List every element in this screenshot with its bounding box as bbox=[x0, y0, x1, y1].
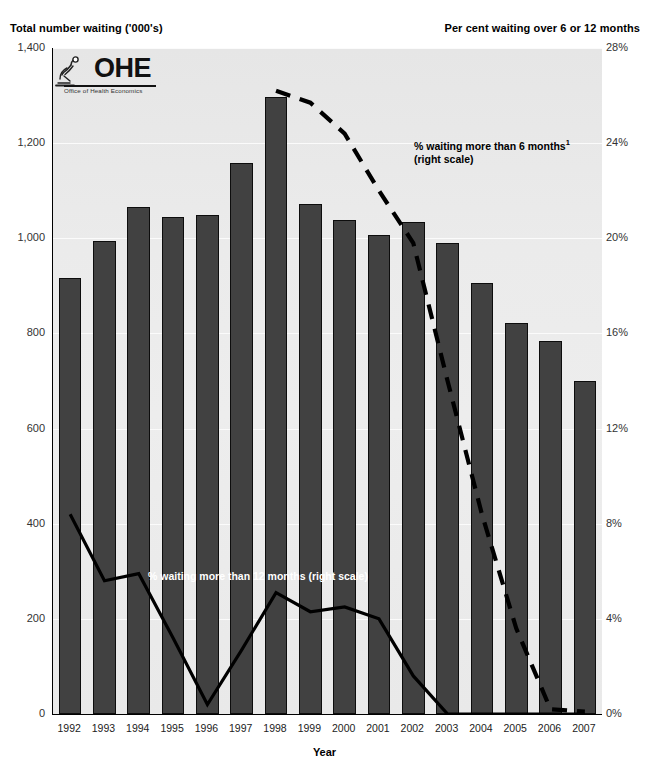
annotation-six-months-line2: (right scale) bbox=[414, 153, 474, 165]
x-tick-2007: 2007 bbox=[567, 722, 601, 734]
ohe-logo: OHE Office of Health Economics bbox=[50, 54, 158, 98]
annotation-six-months: % waiting more than 6 months1 (right sca… bbox=[414, 136, 570, 166]
ohe-subtitle: Office of Health Economics bbox=[64, 87, 142, 94]
ohe-wordmark: OHE bbox=[94, 55, 151, 82]
left-tick-0: 0 bbox=[0, 707, 45, 719]
right-axis-title: Per cent waiting over 6 or 12 months bbox=[444, 22, 640, 34]
annotation-six-months-footnote-marker: 1 bbox=[566, 138, 570, 147]
right-tick-12%: 12% bbox=[606, 422, 646, 434]
left-tick-1,400: 1,400 bbox=[0, 41, 45, 53]
x-tick-2004: 2004 bbox=[464, 722, 498, 734]
x-tick-2000: 2000 bbox=[327, 722, 361, 734]
annotation-six-months-line1: % waiting more than 6 months bbox=[414, 140, 566, 152]
x-tick-1994: 1994 bbox=[121, 722, 155, 734]
right-tick-16%: 16% bbox=[606, 326, 646, 338]
left-tick-600: 600 bbox=[0, 422, 45, 434]
x-tick-1993: 1993 bbox=[86, 722, 120, 734]
x-axis-label: Year bbox=[0, 746, 649, 758]
x-tick-1999: 1999 bbox=[292, 722, 326, 734]
right-tick-20%: 20% bbox=[606, 231, 646, 243]
x-tick-1998: 1998 bbox=[258, 722, 292, 734]
annotation-twelve-months: % waiting more than 12 months (right sca… bbox=[148, 570, 368, 583]
left-tick-1,000: 1,000 bbox=[0, 231, 45, 243]
right-tick-4%: 4% bbox=[606, 612, 646, 624]
left-tick-400: 400 bbox=[0, 517, 45, 529]
right-tick-28%: 28% bbox=[606, 41, 646, 53]
left-tick-1,200: 1,200 bbox=[0, 136, 45, 148]
line-six-months bbox=[276, 91, 585, 712]
right-tick-8%: 8% bbox=[606, 517, 646, 529]
x-tick-2006: 2006 bbox=[532, 722, 566, 734]
line-twelve-months bbox=[70, 514, 585, 714]
x-tick-1996: 1996 bbox=[189, 722, 223, 734]
x-tick-1997: 1997 bbox=[224, 722, 258, 734]
right-tick-0%: 0% bbox=[606, 707, 646, 719]
left-tick-800: 800 bbox=[0, 326, 45, 338]
x-tick-1995: 1995 bbox=[155, 722, 189, 734]
left-tick-200: 200 bbox=[0, 612, 45, 624]
right-tick-24%: 24% bbox=[606, 136, 646, 148]
left-axis-title: Total number waiting ('000's) bbox=[10, 22, 163, 34]
x-tick-2005: 2005 bbox=[498, 722, 532, 734]
x-tick-2001: 2001 bbox=[361, 722, 395, 734]
chart-container: Total number waiting ('000's) Per cent w… bbox=[0, 0, 649, 773]
x-tick-1992: 1992 bbox=[52, 722, 86, 734]
x-tick-2002: 2002 bbox=[395, 722, 429, 734]
x-tick-2003: 2003 bbox=[429, 722, 463, 734]
